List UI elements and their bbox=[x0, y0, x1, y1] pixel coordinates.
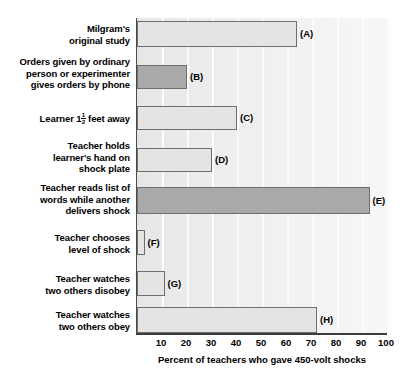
x-tick-50: 50 bbox=[256, 337, 267, 348]
x-tick-90: 90 bbox=[356, 337, 367, 348]
label-line: words while another bbox=[40, 194, 130, 206]
label-line: delivers shock bbox=[40, 205, 130, 217]
bar-row bbox=[137, 106, 387, 130]
x-tick-70: 70 bbox=[306, 337, 317, 348]
label-line: Teacher reads list of bbox=[40, 182, 130, 194]
label-line: original study bbox=[69, 35, 130, 47]
label-line: Milgram's bbox=[69, 23, 130, 35]
x-tick-30: 30 bbox=[206, 337, 217, 348]
label-line: person or experimenter bbox=[19, 68, 130, 80]
bar-c[interactable] bbox=[137, 106, 237, 130]
x-tick-60: 60 bbox=[281, 337, 292, 348]
x-tick-40: 40 bbox=[231, 337, 242, 348]
label-line: two others disobey bbox=[45, 285, 130, 297]
x-tick-20: 20 bbox=[181, 337, 192, 348]
category-label-f: Teacher chooseslevel of shock bbox=[55, 232, 130, 255]
label-line: Teacher holds bbox=[53, 140, 130, 152]
bar-row bbox=[137, 187, 387, 214]
bar-h[interactable] bbox=[137, 307, 317, 333]
label-line: Teacher watches bbox=[56, 309, 130, 321]
bar-chart: (A)(B)(C)(D)(E)(F)(G)(H) Milgram'sorigin… bbox=[0, 0, 408, 374]
bar-tag-h: (H) bbox=[320, 315, 333, 325]
category-label-b: Orders given by ordinaryperson or experi… bbox=[19, 56, 130, 91]
x-axis-tick-labels: 102030405060708090100 bbox=[136, 337, 387, 351]
category-labels: Milgram'soriginal studyOrders given by o… bbox=[0, 18, 133, 333]
bar-tag-b: (B) bbox=[190, 72, 203, 82]
x-tick-100: 100 bbox=[378, 337, 394, 348]
label-line: level of shock bbox=[55, 244, 130, 256]
bar-e[interactable] bbox=[137, 187, 370, 214]
bar-tag-e: (E) bbox=[373, 196, 386, 206]
label-line: learner's hand on bbox=[53, 152, 130, 164]
label-line: two others obey bbox=[56, 321, 130, 333]
label-line: gives orders by phone bbox=[19, 79, 130, 91]
bar-tag-g: (G) bbox=[168, 279, 182, 289]
bar-row bbox=[137, 307, 387, 333]
bar-row bbox=[137, 148, 387, 172]
bar-row bbox=[137, 230, 387, 255]
bar-b[interactable] bbox=[137, 65, 187, 89]
bar-tag-c: (C) bbox=[240, 113, 253, 123]
category-label-g: Teacher watchestwo others disobey bbox=[45, 273, 130, 296]
gridline-100 bbox=[387, 18, 389, 333]
bar-a[interactable] bbox=[137, 21, 297, 47]
bar-tag-f: (F) bbox=[148, 238, 160, 248]
x-axis-line bbox=[136, 333, 387, 335]
bar-row bbox=[137, 21, 387, 47]
label-line: shock plate bbox=[53, 163, 130, 175]
bar-row bbox=[137, 65, 387, 89]
fraction-one-half: 12 bbox=[81, 112, 85, 125]
category-label-d: Teacher holdslearner's hand onshock plat… bbox=[53, 140, 130, 175]
x-axis-title: Percent of teachers who gave 450-volt sh… bbox=[136, 354, 388, 365]
category-label-h: Teacher watchestwo others obey bbox=[56, 309, 130, 332]
category-label-e: Teacher reads list ofwords while another… bbox=[40, 182, 130, 217]
bar-d[interactable] bbox=[137, 148, 212, 172]
x-tick-10: 10 bbox=[156, 337, 167, 348]
label-line: Teacher watches bbox=[45, 273, 130, 285]
x-tick-80: 80 bbox=[331, 337, 342, 348]
bar-tag-a: (A) bbox=[300, 29, 313, 39]
category-label-a: Milgram'soriginal study bbox=[69, 23, 130, 46]
label-line: Orders given by ordinary bbox=[19, 56, 130, 68]
bar-f[interactable] bbox=[137, 230, 145, 255]
bar-tag-d: (D) bbox=[215, 155, 228, 165]
label-line: Teacher chooses bbox=[55, 232, 130, 244]
label-line: Learner 112 feet away bbox=[40, 112, 130, 125]
category-label-c: Learner 112 feet away bbox=[40, 112, 130, 125]
bar-g[interactable] bbox=[137, 271, 165, 296]
